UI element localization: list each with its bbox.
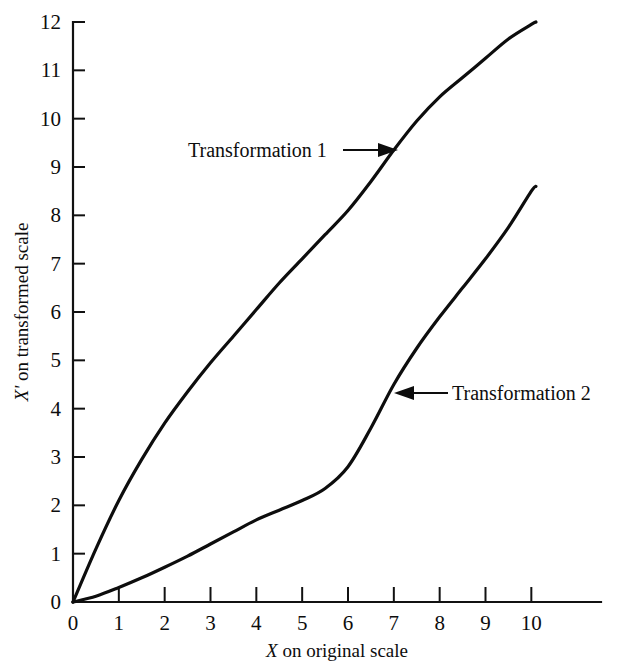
y-tick-label: 12 — [40, 10, 61, 34]
y-tick-label: 5 — [51, 348, 62, 372]
x-tick-label: 1 — [114, 611, 125, 635]
series-label-transformation-2: Transformation 2 — [452, 382, 591, 404]
x-axis-title-rest: on original scale — [278, 640, 408, 661]
y-tick-label: 4 — [51, 397, 62, 421]
y-tick-label: 3 — [51, 445, 62, 469]
y-tick-label: 9 — [51, 155, 62, 179]
x-tick-label: 4 — [251, 611, 262, 635]
y-axis-title-symbol: X' — [11, 385, 32, 403]
y-tick-label: 6 — [51, 300, 62, 324]
transformation-line-chart: 0123456789101112 012345678910 Transforma… — [0, 0, 621, 667]
x-tick-label: 6 — [343, 611, 354, 635]
y-tick-label: 1 — [51, 542, 62, 566]
x-tick-label: 9 — [480, 611, 491, 635]
series-label-transformation-1: Transformation 1 — [188, 139, 327, 161]
x-tick-label: 7 — [389, 611, 400, 635]
y-tick-label: 7 — [51, 252, 62, 276]
y-tick-label: 8 — [51, 203, 62, 227]
y-tick-label: 0 — [51, 590, 62, 614]
x-tick-label: 8 — [434, 611, 445, 635]
y-tick-label: 11 — [41, 58, 61, 82]
x-axis-title: X on original scale — [265, 640, 408, 661]
x-tick-label: 2 — [159, 611, 170, 635]
x-tick-label: 10 — [521, 611, 542, 635]
x-tick-label: 0 — [68, 611, 79, 635]
y-tick-label: 2 — [51, 493, 62, 517]
x-tick-label: 5 — [297, 611, 308, 635]
chart-background — [0, 0, 621, 667]
y-axis-title: X' on transformed scale — [11, 223, 32, 403]
chart-figure: 0123456789101112 012345678910 Transforma… — [0, 0, 621, 667]
y-tick-label: 10 — [40, 107, 61, 131]
y-axis-title-rest: on transformed scale — [11, 223, 32, 386]
x-tick-label: 3 — [205, 611, 216, 635]
